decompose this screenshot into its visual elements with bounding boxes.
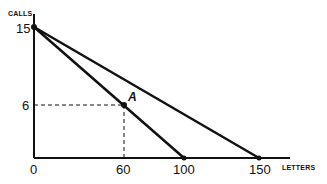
y-tick-15: 15 (16, 21, 30, 36)
point-intercept-y (31, 24, 37, 30)
point-intercept-100 (182, 156, 187, 161)
y-axis-label: CALLS (8, 10, 32, 17)
x-tick-60: 60 (116, 162, 130, 177)
point-a-label: A (128, 90, 137, 104)
chart-plot (0, 0, 327, 184)
x-tick-100: 100 (173, 162, 195, 177)
x-tick-150: 150 (249, 162, 271, 177)
x-tick-0: 0 (30, 162, 37, 177)
budget-line-2 (34, 27, 259, 158)
point-intercept-150 (257, 156, 262, 161)
point-a (121, 102, 127, 108)
y-tick-6: 6 (22, 98, 29, 113)
x-axis-label: LETTERS (282, 164, 315, 171)
budget-line-1 (34, 27, 184, 158)
